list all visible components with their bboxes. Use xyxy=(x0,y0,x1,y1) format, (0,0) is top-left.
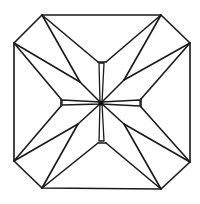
sliver-facet-right xyxy=(101,100,140,106)
sliver-facet-top xyxy=(99,63,104,103)
sliver-facet-left xyxy=(62,100,101,105)
facet-group-nw xyxy=(14,15,101,103)
sliver-facet-bottom xyxy=(99,103,104,141)
facet-diagram xyxy=(0,0,200,204)
facet-group-se xyxy=(101,103,190,189)
facet-group-ne xyxy=(101,15,190,103)
facet-group-sw xyxy=(14,103,101,188)
center-culet xyxy=(98,100,103,105)
